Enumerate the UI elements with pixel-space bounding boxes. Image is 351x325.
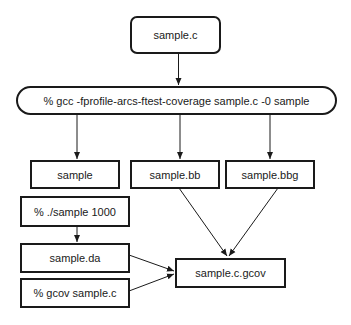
edge-gcov-cmd-to-gcov-out (129, 274, 174, 291)
node-compile-command: % gcc -fprofile-arcs-ftest-coverage samp… (16, 86, 337, 115)
edge-bb-to-gcov-out (179, 188, 227, 256)
node-binary: sample (30, 160, 120, 189)
node-bbg-file: sample.bbg (225, 160, 315, 189)
node-gcov-output: sample.c.gcov (175, 258, 286, 288)
node-run-command: % ./sample 1000 (20, 196, 130, 227)
node-bb-file: sample.bb (130, 160, 220, 189)
node-gcov-command: % gcov sample.c (20, 278, 130, 308)
node-da-file: sample.da (20, 243, 130, 273)
edge-da-to-gcov-out (129, 255, 174, 271)
node-source-file: sample.c (130, 16, 221, 54)
edge-bbg-to-gcov-out (229, 188, 278, 256)
